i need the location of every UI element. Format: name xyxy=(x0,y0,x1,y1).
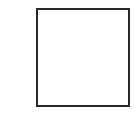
square-outline xyxy=(36,8,130,107)
